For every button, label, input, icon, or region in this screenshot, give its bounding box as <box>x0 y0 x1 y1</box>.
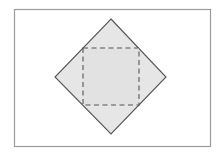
inscribed-dashed-square <box>83 48 139 105</box>
diagram-canvas <box>0 0 220 156</box>
